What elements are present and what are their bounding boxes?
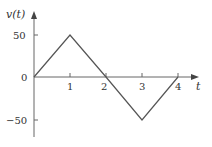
y-tick-label-50: 50 [13, 30, 26, 41]
y-axis-arrow-icon [31, 11, 37, 19]
x-tick-label-3: 3 [139, 81, 145, 92]
y-tick-label-0: 0 [21, 72, 27, 83]
x-tick-label-4: 4 [175, 81, 181, 92]
x-tick-label-1: 1 [67, 81, 73, 92]
x-axis-label: t [196, 80, 201, 93]
chart: v(t) 50 0 −50 1 2 3 4 t [0, 0, 212, 147]
x-tick-label-2: 2 [101, 81, 107, 92]
y-tick-label-neg50: −50 [6, 115, 27, 126]
y-axis-label: v(t) [6, 8, 25, 21]
